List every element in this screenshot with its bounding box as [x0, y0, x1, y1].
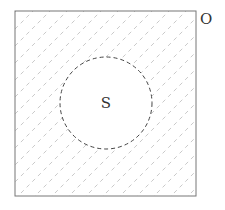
set-s-label: S: [101, 94, 111, 112]
universe-label: O: [200, 10, 212, 28]
venn-diagram: O S: [0, 0, 225, 210]
complement-hatching: [0, 0, 225, 210]
